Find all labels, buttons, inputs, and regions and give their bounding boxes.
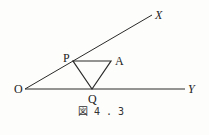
- label-a: A: [115, 54, 124, 68]
- label-x: X: [154, 8, 163, 22]
- figure-caption: 図 4 . 3: [78, 106, 124, 117]
- label-o: O: [14, 82, 23, 96]
- label-p: P: [63, 51, 70, 65]
- figure-canvas: O X Y P A Q 図 4 . 3: [0, 0, 209, 135]
- label-y: Y: [188, 82, 196, 96]
- ray-ox: [25, 15, 152, 89]
- triangle-paq: [73, 61, 111, 89]
- label-q: Q: [88, 92, 97, 106]
- geometry-diagram: O X Y P A Q 図 4 . 3: [0, 0, 209, 135]
